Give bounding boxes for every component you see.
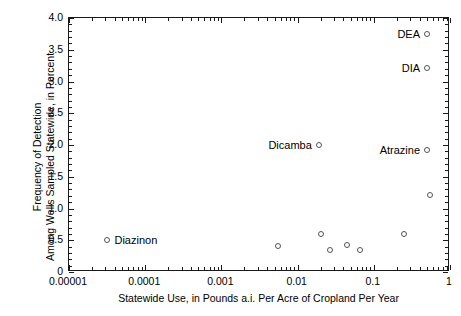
data-point-label: Dicamba — [268, 139, 311, 151]
x-axis-minor-tick — [204, 267, 205, 270]
x-axis-minor-tick — [334, 267, 335, 270]
x-axis-minor-tick — [138, 267, 139, 270]
y-axis-major-tick — [443, 82, 448, 83]
x-axis-minor-tick — [286, 267, 287, 270]
y-axis-minor-tick — [69, 253, 72, 254]
y-axis-major-tick — [69, 82, 74, 83]
y-axis-major-tick — [443, 240, 448, 241]
x-axis-minor-tick — [105, 18, 106, 21]
x-axis-minor-tick — [191, 267, 192, 270]
x-axis-minor-tick — [204, 18, 205, 21]
data-point — [104, 237, 110, 243]
y-axis-tick-label: 0.5 — [3, 233, 63, 245]
x-axis-minor-tick — [218, 18, 219, 21]
y-axis-minor-tick — [69, 158, 72, 159]
x-axis-minor-tick — [275, 18, 276, 21]
x-axis-minor-tick — [443, 267, 444, 270]
y-axis-minor-tick — [69, 139, 72, 140]
x-axis-major-tick — [298, 18, 299, 23]
x-axis-minor-tick — [258, 18, 259, 21]
x-axis-minor-tick — [168, 267, 169, 270]
x-axis-minor-tick — [168, 18, 169, 21]
y-axis-tick-label: 2.5 — [3, 106, 63, 118]
data-point — [275, 243, 281, 249]
y-axis-minor-tick — [69, 94, 72, 95]
x-axis-minor-tick — [92, 18, 93, 21]
x-axis-minor-tick — [267, 267, 268, 270]
y-axis-minor-tick — [69, 107, 72, 108]
x-axis-minor-tick — [366, 267, 367, 270]
x-axis-minor-tick — [321, 267, 322, 270]
y-axis-minor-tick — [69, 183, 72, 184]
x-axis-minor-tick — [244, 267, 245, 270]
data-point-label: Atrazine — [380, 144, 420, 156]
y-axis-minor-tick — [445, 69, 448, 70]
y-axis-minor-tick — [69, 164, 72, 165]
y-axis-major-tick — [443, 18, 448, 19]
y-axis-minor-tick — [445, 221, 448, 222]
data-point — [427, 192, 433, 198]
x-axis-minor-tick — [210, 267, 211, 270]
y-axis-minor-tick — [445, 62, 448, 63]
data-point — [424, 147, 430, 153]
x-axis-minor-tick — [357, 18, 358, 21]
data-point — [327, 247, 333, 253]
x-axis-minor-tick — [438, 267, 439, 270]
x-axis-major-tick — [450, 18, 451, 23]
y-axis-tick-label: 1.5 — [3, 170, 63, 182]
y-axis-minor-tick — [69, 132, 72, 133]
x-axis-tick-label: 0.01 — [286, 275, 306, 287]
x-axis-minor-tick — [214, 267, 215, 270]
x-axis-minor-tick — [351, 267, 352, 270]
x-axis-minor-tick — [281, 18, 282, 21]
y-axis-minor-tick — [445, 31, 448, 32]
data-point — [424, 65, 430, 71]
y-axis-minor-tick — [445, 120, 448, 121]
x-axis-minor-tick — [334, 18, 335, 21]
data-point — [357, 247, 363, 253]
x-axis-minor-tick — [115, 18, 116, 21]
y-axis-minor-tick — [445, 170, 448, 171]
x-axis-minor-tick — [433, 267, 434, 270]
y-axis-major-tick — [69, 145, 74, 146]
x-axis-minor-tick — [433, 18, 434, 21]
plot-area: DiazinonDicambaAtrazineDEADIA — [68, 17, 449, 271]
x-axis-minor-tick — [122, 18, 123, 21]
data-point-label: DEA — [397, 28, 420, 40]
y-axis-major-tick — [443, 209, 448, 210]
y-axis-tick-label: 4.0 — [3, 11, 63, 23]
y-axis-major-tick — [443, 113, 448, 114]
x-axis-minor-tick — [357, 267, 358, 270]
x-axis-minor-tick — [244, 18, 245, 21]
x-axis-minor-tick — [275, 267, 276, 270]
y-axis-minor-tick — [445, 107, 448, 108]
y-axis-minor-tick — [69, 126, 72, 127]
x-axis-minor-tick — [343, 18, 344, 21]
x-axis-minor-tick — [438, 18, 439, 21]
x-axis-minor-tick — [105, 267, 106, 270]
x-axis-minor-tick — [420, 267, 421, 270]
y-axis-minor-tick — [69, 62, 72, 63]
y-axis-major-tick — [443, 177, 448, 178]
x-axis-major-tick — [298, 265, 299, 270]
x-axis-major-tick — [221, 265, 222, 270]
y-axis-minor-tick — [445, 88, 448, 89]
x-axis-minor-tick — [397, 18, 398, 21]
y-axis-minor-tick — [445, 259, 448, 260]
x-axis-minor-tick — [447, 267, 448, 270]
x-axis-minor-tick — [427, 18, 428, 21]
x-axis-minor-tick — [290, 18, 291, 21]
y-axis-minor-tick — [445, 43, 448, 44]
y-axis-minor-tick — [445, 183, 448, 184]
y-axis-minor-tick — [445, 247, 448, 248]
x-axis-minor-tick — [198, 18, 199, 21]
y-axis-minor-tick — [69, 56, 72, 57]
x-axis-minor-tick — [128, 18, 129, 21]
y-axis-minor-tick — [69, 43, 72, 44]
x-axis-minor-tick — [115, 267, 116, 270]
y-axis-major-tick — [69, 177, 74, 178]
y-axis-minor-tick — [445, 75, 448, 76]
x-axis-title: Statewide Use, in Pounds a.i. Per Acre o… — [68, 292, 449, 304]
y-axis-minor-tick — [69, 69, 72, 70]
y-axis-minor-tick — [69, 120, 72, 121]
